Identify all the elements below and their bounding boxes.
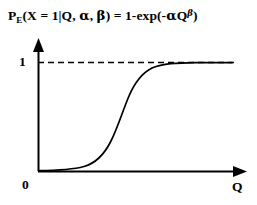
y-axis-arrowhead-icon [33, 38, 44, 52]
x-axis-arrowhead-icon [233, 166, 247, 177]
probability-curve [39, 63, 233, 171]
x-axis-label-q: Q [232, 180, 243, 194]
plot-area [0, 0, 257, 205]
origin-label-zero: 0 [22, 178, 29, 192]
figure-container: PE(X = 1|Q, α, β) = 1-exp(-αQβ) 1 0 Q [0, 0, 257, 205]
y-axis-tick-label-one: 1 [19, 55, 26, 69]
